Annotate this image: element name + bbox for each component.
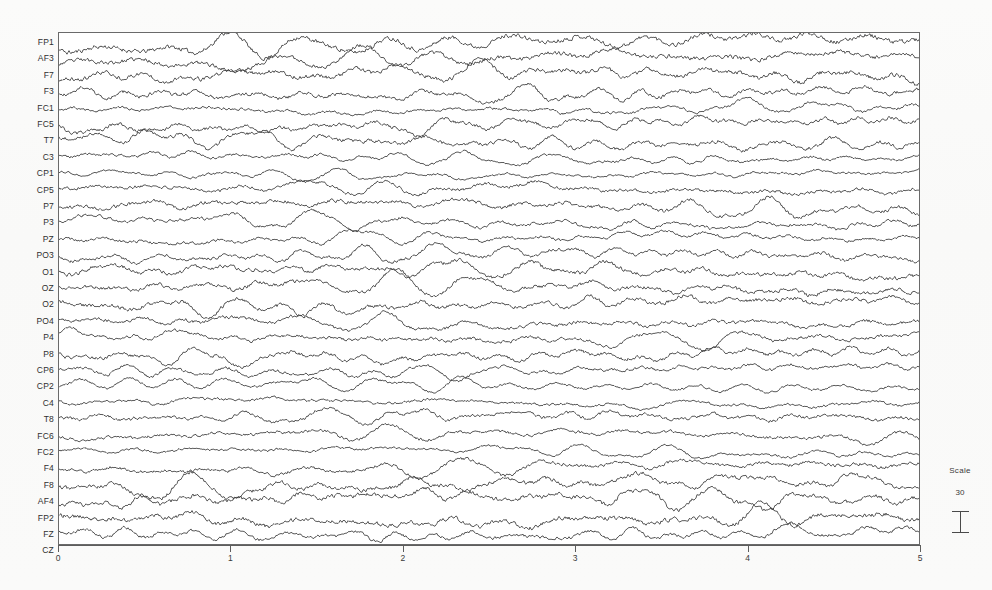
scale-legend-title: Scale [930,466,990,475]
x-tick-label-3: 3 [573,553,578,563]
channel-label-oz: OZ [42,283,54,293]
eeg-trace-fc1 [59,97,919,116]
eeg-trace-fc6 [59,423,919,445]
x-tick-2 [403,545,404,552]
eeg-trace-oz [59,268,919,296]
x-tick-label-2: 2 [400,553,405,563]
i-beam-calibration-icon [952,511,969,533]
channel-label-cp2: CP2 [37,381,54,391]
x-tick-0 [58,545,59,552]
channel-label-o1: O1 [42,267,54,277]
channel-label-fp1: FP1 [38,37,54,47]
eeg-trace-af3 [59,45,919,72]
channel-label-p4: P4 [43,332,54,342]
eeg-trace-p4 [59,327,919,351]
x-tick-label-1: 1 [228,553,233,563]
eeg-trace-pz [59,229,919,246]
channel-label-fp2: FP2 [38,513,54,523]
channel-label-fc6: FC6 [37,431,54,441]
eeg-traces [59,33,919,544]
channel-label-f3: F3 [44,86,54,96]
channel-label-af4: AF4 [38,496,54,506]
channel-label-fc5: FC5 [37,119,54,129]
eeg-trace-p3 [59,209,919,231]
channel-label-po4: PO4 [36,316,54,326]
eeg-trace-fp1 [59,33,919,61]
eeg-trace-o1 [59,258,919,281]
eeg-trace-af4 [59,486,919,512]
channel-label-c4: C4 [43,398,54,408]
eeg-trace-fc5 [59,115,919,137]
eeg-figure: FP1AF3F7F3FC1FC5T7C3CP1CP5P7P3PZPO3O1OZO… [0,0,992,590]
eeg-trace-po3 [59,242,919,264]
eeg-trace-c3 [59,150,919,166]
channel-label-fz: FZ [43,529,54,539]
eeg-trace-fp2 [59,501,919,530]
channel-label-cz: CZ [42,545,54,555]
eeg-trace-f3 [59,83,919,104]
eeg-trace-cp2 [59,376,919,393]
eeg-trace-f8 [59,471,919,500]
channel-label-cp5: CP5 [37,185,54,195]
x-tick-label-4: 4 [745,553,750,563]
channel-label-fc2: FC2 [37,447,54,457]
channel-label-f7: F7 [44,70,54,80]
eeg-trace-cp5 [59,180,919,196]
eeg-trace-o2 [59,295,919,319]
channel-label-column: FP1AF3F7F3FC1FC5T7C3CP1CP5P7P3PZPO3O1OZO… [0,0,58,590]
eeg-plot-area [58,32,920,545]
x-axis-line [58,545,920,546]
eeg-trace-c4 [59,396,919,410]
x-tick-3 [575,545,576,552]
channel-label-af3: AF3 [38,53,54,63]
channel-label-cp1: CP1 [37,168,54,178]
channel-label-pz: PZ [43,234,54,244]
channel-label-c3: C3 [43,152,54,162]
channel-label-p7: P7 [43,201,54,211]
channel-label-cp6: CP6 [37,365,54,375]
x-tick-5 [920,545,921,552]
channel-label-t7: T7 [44,135,54,145]
eeg-trace-fz [59,522,919,543]
eeg-trace-p7 [59,196,919,219]
channel-label-f4: F4 [44,463,54,473]
eeg-trace-f4 [59,457,919,479]
scale-legend: Scale 30 [930,466,990,533]
eeg-trace-fc2 [59,444,919,459]
channel-label-t8: T8 [44,414,54,424]
x-tick-4 [748,545,749,552]
channel-label-p8: P8 [43,349,54,359]
eeg-trace-cp1 [59,168,919,182]
channel-label-p3: P3 [43,217,54,227]
scale-legend-value: 30 [930,488,990,497]
eeg-trace-t8 [59,407,919,425]
eeg-trace-cp6 [59,363,919,382]
channel-label-fc1: FC1 [37,103,54,113]
channel-label-o2: O2 [42,299,54,309]
channel-label-f8: F8 [44,480,54,490]
eeg-trace-f7 [59,57,919,85]
x-tick-1 [230,545,231,552]
channel-label-po3: PO3 [36,250,54,260]
x-tick-label-5: 5 [918,553,923,563]
x-tick-label-0: 0 [56,553,61,563]
eeg-trace-t7 [59,129,919,152]
eeg-trace-po4 [59,311,919,332]
